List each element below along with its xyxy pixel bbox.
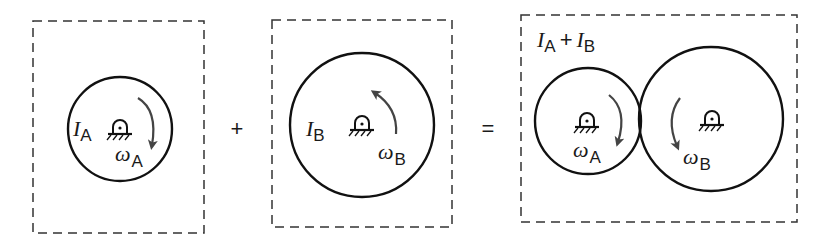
pivot-icon xyxy=(574,113,599,133)
rotation-arrow-clockwise-icon xyxy=(138,98,153,145)
diagram-canvas: IA ωA + IB ωB = IA+IB ωA xyxy=(0,0,825,246)
omega-label-a-combined: ωA xyxy=(573,137,602,167)
pivot-icon xyxy=(699,111,724,131)
inertia-label-a: IA xyxy=(72,116,92,145)
combined-inertia-label: IA+IB xyxy=(536,27,595,56)
rotation-arrow-counterclockwise-icon xyxy=(375,93,396,134)
omega-label-b-combined: ωB xyxy=(683,144,711,174)
inertia-label-b: IB xyxy=(305,116,325,145)
pivot-icon xyxy=(107,120,132,140)
panel-disk-b: IB ωB xyxy=(272,20,452,227)
omega-label-a: ωA xyxy=(115,141,144,171)
omega-label-b: ωB xyxy=(378,139,406,169)
dashed-boundary-a xyxy=(33,21,204,233)
panel-disk-a: IA ωA xyxy=(33,21,204,233)
plus-operator: + xyxy=(231,116,244,141)
panel-combined-disks: IA+IB ωA ωB xyxy=(521,15,797,222)
pivot-icon xyxy=(349,116,374,136)
rotation-arrow-clockwise-icon xyxy=(672,98,680,146)
rotation-arrow-clockwise-icon xyxy=(609,95,621,142)
equals-operator: = xyxy=(482,116,495,141)
